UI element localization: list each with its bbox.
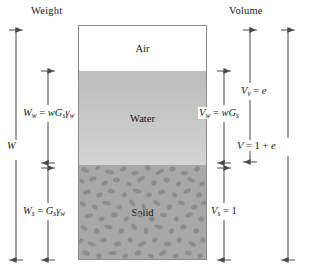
label-water-weight: Ww = wGsγw bbox=[22, 107, 75, 119]
soil-phase-diagram: Weight Volume Air Water bbox=[0, 0, 318, 273]
dimension-total-volume bbox=[281, 30, 295, 260]
label-total-volume: V = 1 + e bbox=[236, 140, 277, 151]
label-solid-weight: Ws = Gsγw bbox=[22, 205, 66, 217]
dimension-lines bbox=[0, 0, 318, 273]
label-water-volume: Vw = wGs bbox=[198, 107, 240, 119]
label-solid-volume: Vs = 1 bbox=[210, 205, 238, 217]
label-total-weight: W bbox=[6, 140, 17, 151]
label-void-volume: Vv = e bbox=[240, 85, 268, 97]
